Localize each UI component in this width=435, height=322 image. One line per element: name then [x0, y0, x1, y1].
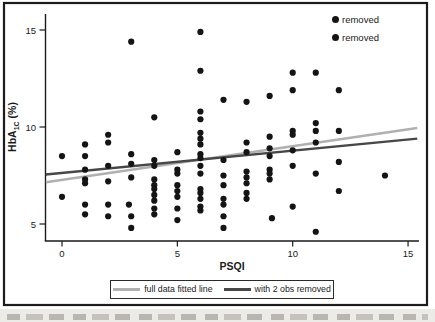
scatter-point — [197, 163, 203, 169]
scatter-point — [174, 149, 180, 155]
scatter-point — [105, 132, 111, 138]
scatter-point — [220, 182, 226, 188]
obs-removed-line-swatch-icon — [224, 288, 251, 291]
scatter-point — [220, 196, 226, 202]
scatter-point — [243, 99, 249, 105]
scatter-point — [336, 188, 342, 194]
scatter-point — [290, 132, 296, 138]
scatter-point — [128, 213, 134, 219]
scatter-point — [59, 153, 65, 159]
scatter-point — [82, 167, 88, 173]
scatter-point — [290, 87, 296, 93]
scatter-point — [313, 229, 319, 235]
legend-label: removed — [342, 15, 379, 25]
scatter-point — [243, 174, 249, 180]
legend-entry-full-data: full data fitted line — [113, 285, 212, 294]
scatter-point — [243, 149, 249, 155]
scatter-point — [128, 151, 134, 157]
legend-label: full data fitted line — [144, 285, 212, 294]
scatter-point — [267, 145, 273, 151]
scatter-point — [290, 70, 296, 76]
legend-label: removed — [342, 33, 379, 43]
scatter-point — [174, 217, 180, 223]
scatter-point — [82, 211, 88, 217]
figure-border — [4, 3, 427, 305]
scatter-point — [128, 225, 134, 231]
scatter-point — [336, 159, 342, 165]
scatter-point — [269, 215, 275, 221]
scatter-point — [197, 108, 203, 114]
scatter-point — [197, 207, 203, 213]
scatter-point — [151, 176, 157, 182]
full-data-line-swatch-icon — [113, 288, 140, 291]
scatter-point — [197, 130, 203, 136]
cropped-caption-strip — [0, 309, 435, 322]
scatter-point — [128, 174, 134, 180]
scatter-point — [220, 202, 226, 208]
scatter-point — [290, 163, 296, 169]
scatter-point — [105, 213, 111, 219]
scatter-point — [220, 97, 226, 103]
fitted-line-legend: full data fitted line with 2 obs removed — [110, 280, 334, 299]
scatter-point — [82, 202, 88, 208]
scatter-point — [267, 153, 273, 159]
scatter-point — [220, 157, 226, 163]
scatter-point — [197, 196, 203, 202]
scatter-point — [151, 163, 157, 169]
y-tick-label: 10 — [25, 122, 36, 133]
legend-entry-obs-removed: with 2 obs removed — [224, 285, 331, 294]
removed-point-marker-icon — [332, 16, 339, 23]
scatter-point — [82, 141, 88, 147]
fitted-line-obs-removed — [46, 139, 417, 175]
scatter-plot: 05101551015PSQIHbA1C (%) — [0, 0, 435, 308]
legend-label: with 2 obs removed — [255, 285, 331, 294]
removed-scatter-point — [128, 39, 134, 45]
scatter-point — [151, 157, 157, 163]
illegible-caption-text — [7, 314, 428, 320]
scatter-point — [243, 196, 249, 202]
scatter-point — [151, 192, 157, 198]
scatter-point — [313, 139, 319, 145]
scatter-point — [174, 170, 180, 176]
x-tick-label: 0 — [59, 248, 64, 259]
scatter-point — [151, 198, 157, 204]
scatter-point — [243, 139, 249, 145]
scatter-point — [220, 172, 226, 178]
y-tick-label: 5 — [31, 219, 36, 230]
scatter-point — [174, 205, 180, 211]
scatter-point — [128, 161, 134, 167]
x-axis-title: PSQI — [219, 260, 244, 272]
x-tick-label: 15 — [403, 248, 414, 259]
scatter-point — [267, 134, 273, 140]
legend-entry-removed-1: removed — [332, 15, 379, 25]
scatter-point — [151, 211, 157, 217]
scatter-point — [382, 172, 388, 178]
scatter-point — [105, 178, 111, 184]
scatter-point — [126, 202, 132, 208]
scatter-point — [59, 194, 65, 200]
scatter-point — [313, 120, 319, 126]
scatter-point — [267, 93, 273, 99]
scatter-point — [267, 170, 273, 176]
y-tick-label: 15 — [25, 25, 36, 36]
x-tick-label: 10 — [287, 248, 298, 259]
scatter-point — [82, 153, 88, 159]
scatter-point — [151, 205, 157, 211]
scatter-point — [290, 147, 296, 153]
scatter-point — [220, 213, 226, 219]
scatter-point — [243, 190, 249, 196]
legend-entry-removed-2: removed — [332, 33, 379, 43]
scatter-point — [267, 176, 273, 182]
scatter-point — [313, 170, 319, 176]
scatter-point — [105, 139, 111, 145]
scatter-point — [313, 128, 319, 134]
fitted-line-full-data — [46, 128, 417, 182]
scatter-point — [336, 87, 342, 93]
scatter-point — [151, 186, 157, 192]
x-tick-label: 5 — [175, 248, 180, 259]
scatter-point — [220, 225, 226, 231]
scatter-point — [197, 68, 203, 74]
scatter-point — [105, 202, 111, 208]
scatter-point — [197, 190, 203, 196]
scatter-point — [197, 141, 203, 147]
